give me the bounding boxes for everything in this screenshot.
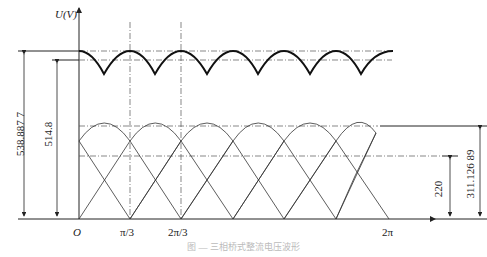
origin-label: O xyxy=(73,226,81,238)
tick-2pi: 2π xyxy=(382,226,393,238)
y-axis-label: U(V) xyxy=(55,8,77,20)
tick-pi-3: π/3 xyxy=(120,226,134,238)
figure-caption: 图 — 三相桥式整流电压波形 xyxy=(0,240,487,253)
waveform-plot xyxy=(0,0,487,257)
dim-right-inner: 220 xyxy=(432,174,444,204)
dim-right-outer: 311.126 89 xyxy=(464,139,476,209)
phase-arcs xyxy=(79,122,389,219)
rectified-ripple-curve xyxy=(79,51,393,74)
dim-left-outer: 538.887 7 xyxy=(14,104,26,164)
tick-2pi-3: 2π/3 xyxy=(168,226,188,238)
waveform-figure: U(V) O π/3 2π/3 2π 538.887 7 514.8 220 3… xyxy=(0,0,487,257)
dim-left-inner: 514.8 xyxy=(42,114,54,154)
